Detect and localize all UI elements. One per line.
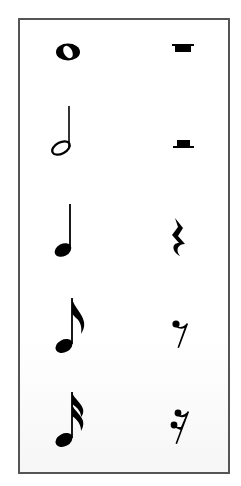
sixteenth-rest-icon	[142, 386, 222, 476]
whole-note-cell	[26, 8, 106, 98]
half-rest-icon	[142, 102, 222, 192]
sixteenth-note-cell	[26, 386, 106, 476]
quarter-rest-cell	[142, 196, 222, 286]
half-note-icon	[26, 102, 106, 192]
eighth-rest-cell	[142, 292, 222, 382]
whole-rest-icon	[142, 8, 222, 98]
whole-note-icon	[26, 8, 106, 98]
sixteenth-note-icon	[26, 386, 106, 476]
sixteenth-rest-cell	[142, 386, 222, 476]
eighth-note-icon	[26, 292, 106, 382]
eighth-note-cell	[26, 292, 106, 382]
quarter-rest-icon	[142, 196, 222, 286]
half-note-cell	[26, 102, 106, 192]
quarter-note-cell	[26, 196, 106, 286]
note-rest-chart-frame	[18, 18, 230, 474]
whole-rest-cell	[142, 8, 222, 98]
quarter-note-icon	[26, 196, 106, 286]
half-rest-cell	[142, 102, 222, 192]
eighth-rest-icon	[142, 292, 222, 382]
